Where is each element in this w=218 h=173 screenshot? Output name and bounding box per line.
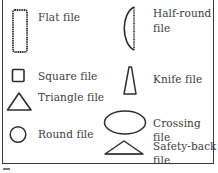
square-file-label: Square file xyxy=(38,69,97,84)
half-round-file-label-line1: Half-round xyxy=(153,6,211,21)
knife-file-icon xyxy=(124,67,136,94)
flat-file-label: Flat file xyxy=(38,10,80,25)
safety-back-file-label-line2: file xyxy=(153,153,170,168)
round-file-icon xyxy=(10,127,26,143)
half-round-file-label-line2: file xyxy=(153,21,170,36)
round-file-label: Round file xyxy=(38,127,94,142)
safety-back-file-label-line1: Safety-back xyxy=(153,139,217,154)
crossing-file-icon xyxy=(105,111,146,134)
safety-back-file-icon xyxy=(105,141,143,154)
crossing-file-label-line1: Crossing xyxy=(153,116,201,131)
flat-file-icon xyxy=(13,10,27,52)
square-file-icon xyxy=(13,70,25,82)
triangle-file-icon xyxy=(8,93,32,110)
half-round-file-icon xyxy=(124,7,134,50)
corner-mark xyxy=(3,168,10,170)
triangle-file-label: Triangle file xyxy=(38,90,104,105)
knife-file-label: Knife file xyxy=(153,72,202,87)
